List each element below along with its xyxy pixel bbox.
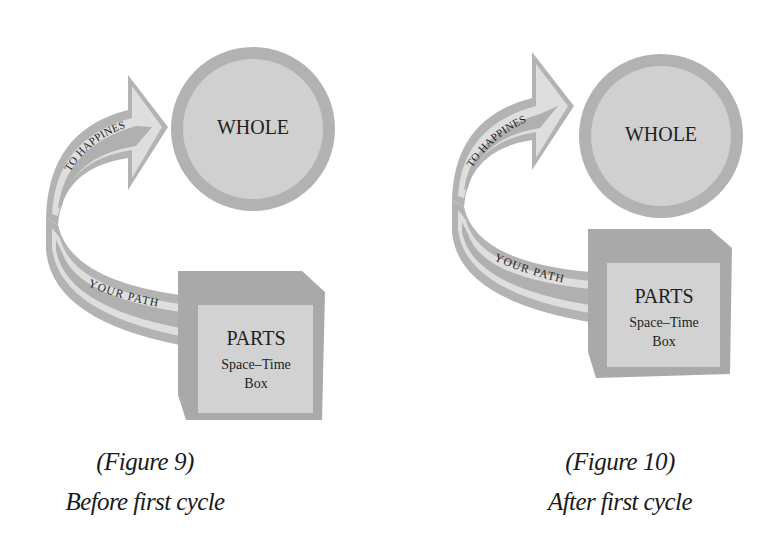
parts-label: PARTS bbox=[634, 285, 693, 307]
figure-9-number: (Figure 9) bbox=[60, 448, 230, 476]
to-happiness-arrow: TO HAPPINES bbox=[452, 52, 574, 207]
figure-10-number: (Figure 10) bbox=[520, 448, 720, 476]
box-line1: Space–Time bbox=[629, 315, 698, 330]
figure-9: YOUR PATH TO HAPPINES WHOLE PARTS Space–… bbox=[46, 47, 335, 420]
box-line1: Space–Time bbox=[221, 357, 290, 372]
whole-label: WHOLE bbox=[625, 123, 697, 145]
box-line2: Box bbox=[652, 334, 675, 349]
your-path-band: YOUR PATH bbox=[46, 218, 180, 345]
figure-10: YOUR PATH TO HAPPINES WHOLE PARTS Space–… bbox=[452, 52, 743, 378]
to-happiness-arrow: TO HAPPINES bbox=[46, 75, 168, 225]
your-path-band: YOUR PATH bbox=[452, 200, 590, 322]
figure-9-caption: (Figure 9) Before first cycle bbox=[60, 448, 230, 516]
figure-10-description: After first cycle bbox=[520, 488, 720, 516]
parts-label: PARTS bbox=[226, 327, 285, 349]
whole-circle: WHOLE bbox=[171, 47, 335, 211]
figure-9-description: Before first cycle bbox=[60, 488, 230, 516]
whole-label: WHOLE bbox=[217, 116, 289, 138]
figure-10-caption: (Figure 10) After first cycle bbox=[520, 448, 720, 516]
parts-box: PARTS Space–Time Box bbox=[588, 229, 732, 378]
box-line2: Box bbox=[244, 376, 267, 391]
whole-circle: WHOLE bbox=[579, 54, 743, 218]
parts-box: PARTS Space–Time Box bbox=[178, 271, 325, 420]
